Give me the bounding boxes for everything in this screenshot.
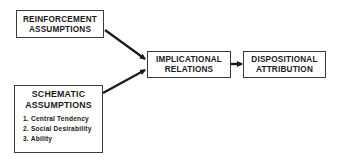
box-title-line1: DISPOSITIONAL [244,55,325,65]
box-title-line1: REINFORCEMENT [17,15,103,25]
box-title-line2: ASSUMPTIONS [15,100,102,111]
list-item: 3. Ability [23,134,102,144]
arrow-schematic-to-implicational [103,70,145,93]
schematic-assumptions-box: SCHEMATIC ASSUMPTIONS 1. Central Tendenc… [14,85,103,153]
box-title-line2: ASSUMPTIONS [17,25,103,35]
list-item: 2. Social Desirability [23,124,102,134]
box-title-line1: IMPLICATIONAL [148,55,230,65]
box-title-line2: RELATIONS [148,65,230,75]
box-title-line2: ATTRIBUTION [244,65,325,75]
box-title-line1: SCHEMATIC [15,89,102,100]
schematic-list: 1. Central Tendency 2. Social Desirabili… [15,114,102,144]
implicational-relations-box: IMPLICATIONAL RELATIONS [147,51,231,78]
arrow-reinforcement-to-implicational [105,30,145,59]
dispositional-attribution-box: DISPOSITIONAL ATTRIBUTION [243,51,326,78]
reinforcement-assumptions-box: REINFORCEMENT ASSUMPTIONS [16,10,104,38]
list-item: 1. Central Tendency [23,114,102,124]
